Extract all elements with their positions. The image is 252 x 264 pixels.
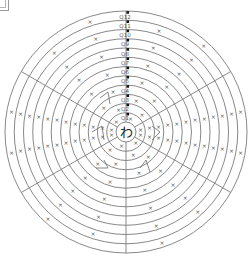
x-mark: × (27, 145, 32, 152)
x-mark: × (133, 139, 138, 146)
x-mark: × (36, 113, 41, 120)
x-mark: × (100, 133, 105, 140)
x-mark: × (82, 121, 87, 128)
x-mark: × (211, 113, 216, 120)
x-mark: × (177, 70, 182, 77)
x-mark: × (54, 116, 59, 123)
ring-label: Q4 (121, 88, 129, 94)
x-mark: × (164, 83, 169, 90)
x-mark: × (119, 142, 124, 149)
x-mark: × (238, 149, 243, 156)
x-mark: × (109, 126, 114, 133)
x-mark: × (64, 139, 69, 146)
x-mark: × (183, 139, 188, 146)
ring-label: Q3 (121, 97, 129, 103)
ring-label: Q12 (119, 14, 130, 20)
x-mark: × (165, 136, 170, 143)
x-mark: × (64, 63, 69, 70)
x-mark: × (202, 115, 207, 122)
x-mark: × (138, 131, 143, 138)
x-mark: × (159, 239, 164, 246)
x-mark: × (99, 53, 104, 60)
x-mark: × (108, 178, 113, 185)
x-mark: × (238, 108, 243, 115)
x-mark: × (110, 88, 115, 95)
x-mark: × (77, 76, 82, 83)
x-mark: × (165, 121, 170, 128)
x-mark: × (193, 141, 198, 148)
ring-label: Q6 (121, 69, 129, 75)
x-mark: × (156, 123, 161, 130)
x-mark: × (145, 62, 150, 69)
x-mark: × (152, 97, 157, 104)
x-mark: × (54, 141, 59, 148)
x-mark: × (96, 213, 101, 220)
ring-label: Q1 (121, 115, 129, 121)
x-mark: × (114, 118, 119, 125)
x-mark: × (70, 187, 75, 194)
x-mark: × (18, 147, 23, 154)
x-mark: × (201, 42, 206, 49)
x-mark: × (158, 167, 163, 174)
x-mark: × (220, 145, 225, 152)
x-mark: × (46, 215, 51, 222)
x-mark: × (9, 149, 14, 156)
x-mark: × (148, 204, 153, 211)
x-mark: × (211, 144, 216, 151)
x-mark: × (93, 35, 98, 42)
x-mark: × (229, 110, 234, 117)
x-mark: × (142, 186, 147, 193)
x-mark: × (18, 110, 23, 117)
x-mark: × (134, 97, 139, 104)
x-mark: × (102, 195, 107, 202)
ring-label: Q11 (119, 23, 130, 29)
x-mark: × (157, 27, 162, 34)
ring-label: Q8 (121, 51, 129, 57)
x-mark: × (154, 222, 159, 229)
x-mark: × (193, 116, 198, 123)
x-mark: × (170, 181, 175, 188)
ring-label: Q2 (121, 106, 129, 112)
x-mark: × (174, 120, 179, 127)
x-mark: × (139, 79, 144, 86)
ring-label: Q10 (119, 32, 131, 38)
x-mark: × (174, 137, 179, 144)
x-mark: × (195, 208, 200, 215)
x-mark: × (27, 112, 32, 119)
x-mark: × (45, 142, 50, 149)
x-mark: × (88, 18, 93, 25)
x-mark: × (52, 49, 57, 56)
x-mark: × (131, 151, 136, 158)
x-mark: × (89, 90, 94, 97)
x-mark: × (64, 118, 69, 125)
x-mark: × (82, 136, 87, 143)
x-mark: × (202, 142, 207, 149)
x-mark: × (113, 160, 118, 167)
x-mark: × (108, 146, 113, 153)
x-mark: × (229, 147, 234, 154)
x-mark: × (83, 174, 88, 181)
x-mark: × (183, 194, 188, 201)
ring-label: Q5 (121, 78, 129, 84)
x-mark: × (36, 144, 41, 151)
ring-label: Q7 (121, 60, 129, 66)
x-mark: × (137, 169, 142, 176)
x-mark: × (101, 104, 106, 111)
triangle-marker (100, 92, 110, 104)
x-mark: × (105, 71, 110, 78)
x-mark: × (73, 137, 78, 144)
center-character: わ (120, 125, 133, 140)
x-mark: × (146, 153, 151, 160)
x-mark: × (9, 108, 14, 115)
x-mark: × (90, 230, 95, 237)
x-mark: × (220, 112, 225, 119)
x-mark: × (45, 115, 50, 122)
x-mark: × (95, 160, 100, 167)
x-mark: × (91, 134, 96, 141)
x-mark: × (147, 124, 152, 131)
x-mark: × (183, 118, 188, 125)
x-mark: × (189, 56, 194, 63)
x-mark: × (91, 123, 96, 130)
x-mark: × (139, 111, 144, 118)
circular-ring-diagram: ××××××××××××××××××××××××××××××××××××××××… (0, 0, 252, 264)
